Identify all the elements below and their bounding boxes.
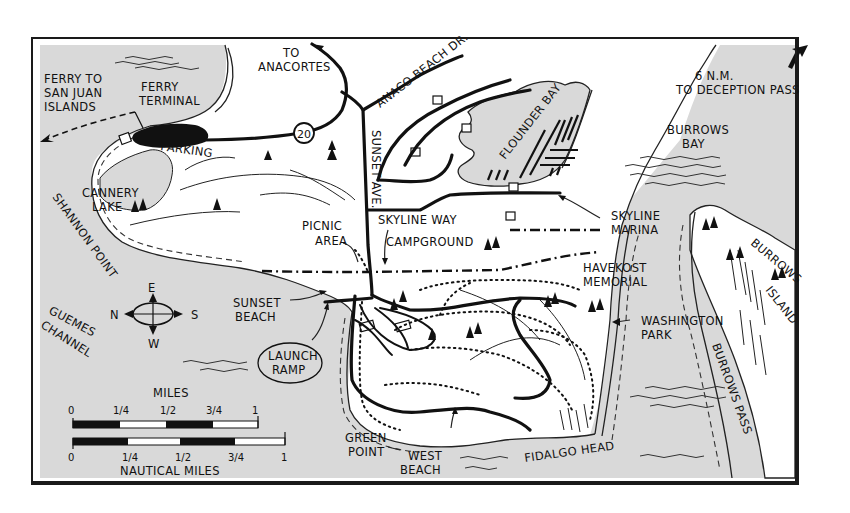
svg-text:MEMORIAL: MEMORIAL bbox=[583, 275, 648, 289]
label-skyline-marina: SKYLINE bbox=[611, 209, 660, 223]
svg-text:3/4: 3/4 bbox=[206, 405, 222, 416]
label-picnic-area: PICNIC bbox=[302, 219, 342, 233]
svg-text:3/4: 3/4 bbox=[228, 452, 244, 463]
svg-text:1/4: 1/4 bbox=[113, 405, 129, 416]
svg-text:ISLANDS: ISLANDS bbox=[44, 100, 96, 114]
label-launch-ramp: LAUNCH bbox=[268, 349, 318, 363]
compass-e: E bbox=[148, 281, 156, 295]
svg-text:MARINA: MARINA bbox=[611, 223, 658, 237]
compass-w: W bbox=[148, 337, 160, 351]
svg-text:SAN JUAN: SAN JUAN bbox=[44, 86, 102, 100]
svg-text:BAY: BAY bbox=[682, 137, 705, 151]
label-ferry-to-san-juan: FERRY TO bbox=[44, 72, 102, 86]
label-cannery-lake: CANNERY bbox=[82, 186, 139, 200]
svg-text:PARK: PARK bbox=[641, 328, 672, 342]
svg-text:1/2: 1/2 bbox=[160, 405, 176, 416]
svg-text:1/4: 1/4 bbox=[122, 452, 138, 463]
label-green-point: GREEN bbox=[345, 431, 387, 445]
compass-n: N bbox=[110, 308, 119, 322]
scale-nautical-title: NAUTICAL MILES bbox=[120, 464, 220, 478]
route-20-shield: 20 bbox=[294, 123, 314, 143]
svg-text:ANACORTES: ANACORTES bbox=[258, 60, 331, 74]
svg-text:BEACH: BEACH bbox=[400, 463, 441, 477]
label-burrows-bay: BURROWS bbox=[667, 123, 729, 137]
label-sunset-ave: SUNSET AVE. bbox=[369, 130, 383, 209]
label-skyline-way: SKYLINE WAY bbox=[378, 213, 457, 227]
svg-text:TERMINAL: TERMINAL bbox=[138, 94, 200, 108]
compass-s: S bbox=[191, 308, 199, 322]
svg-text:BEACH: BEACH bbox=[235, 310, 276, 324]
scale-miles-title: MILES bbox=[153, 386, 189, 400]
svg-text:1: 1 bbox=[252, 405, 258, 416]
label-havekost-memorial: HAVEKOST bbox=[583, 261, 647, 275]
label-sunset-beach: SUNSET bbox=[233, 296, 281, 310]
svg-text:1/2: 1/2 bbox=[175, 452, 191, 463]
svg-text:LAKE: LAKE bbox=[92, 200, 123, 214]
svg-text:20: 20 bbox=[297, 128, 311, 141]
label-ferry-terminal: FERRY bbox=[141, 80, 179, 94]
svg-text:0: 0 bbox=[68, 405, 74, 416]
svg-text:RAMP: RAMP bbox=[272, 363, 305, 377]
label-to-deception-pass: TO DECEPTION PASS bbox=[675, 83, 800, 97]
label-west-beach: WEST bbox=[408, 449, 443, 463]
label-to-anacortes: TO bbox=[282, 46, 300, 60]
label-6nm: 6 N.M. bbox=[695, 69, 734, 83]
svg-text:AREA: AREA bbox=[315, 234, 347, 248]
label-campground: CAMPGROUND bbox=[386, 235, 474, 249]
svg-text:0: 0 bbox=[68, 452, 74, 463]
svg-text:1: 1 bbox=[281, 452, 287, 463]
svg-text:POINT: POINT bbox=[348, 445, 385, 459]
label-washington-park: WASHINGTON bbox=[641, 314, 724, 328]
park-map: 20 FERRY TO SAN JUAN ISLANDS FERRY TERMI… bbox=[0, 0, 850, 513]
trails bbox=[355, 250, 593, 430]
